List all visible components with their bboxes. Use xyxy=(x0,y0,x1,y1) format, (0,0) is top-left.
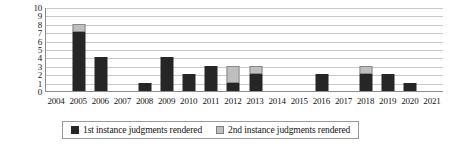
bar-segment-second-instance xyxy=(73,24,86,32)
bar-segment-second-instance xyxy=(227,66,240,83)
dark-square-icon xyxy=(71,126,79,134)
plot-wrapper: 109876543210 xyxy=(25,8,443,98)
bar-segment-first-instance xyxy=(359,74,372,91)
bar-segment-first-instance xyxy=(381,74,394,91)
bar-stack xyxy=(161,57,174,91)
bar-group xyxy=(112,8,134,91)
bar-group xyxy=(156,8,178,91)
bar-segment-first-instance xyxy=(249,74,262,91)
bar-stack xyxy=(359,66,372,91)
x-axis-tick-label: 2010 xyxy=(180,96,197,107)
y-axis: 109876543210 xyxy=(25,8,43,92)
bar-stack xyxy=(227,66,240,91)
bars-layer xyxy=(46,8,443,91)
x-axis-tick-label: 2016 xyxy=(313,96,330,107)
x-axis-tick-label: 2014 xyxy=(269,96,286,107)
bar-group xyxy=(377,8,399,91)
x-axis-tick-label: 2006 xyxy=(92,96,109,107)
bar-segment-second-instance xyxy=(359,66,372,74)
bar-segment-first-instance xyxy=(227,83,240,91)
bar-group xyxy=(46,8,68,91)
bar-stack xyxy=(95,57,108,91)
x-axis-tick-label: 2011 xyxy=(202,96,219,107)
bar-group xyxy=(90,8,112,91)
bar-segment-second-instance xyxy=(249,66,262,74)
bar-stack xyxy=(249,66,262,91)
legend-item-label: 1st instance judgments rendered xyxy=(83,125,202,135)
x-axis-tick-label: 2013 xyxy=(246,96,263,107)
bar-group xyxy=(200,8,222,91)
y-axis-tick-label: 0 xyxy=(38,88,42,97)
legend-item-label: 2nd instance judgments rendered xyxy=(228,125,350,135)
bar-group xyxy=(355,8,377,91)
bar-segment-first-instance xyxy=(183,74,196,91)
bar-stack xyxy=(139,83,152,91)
x-axis-tick-label: 2005 xyxy=(70,96,87,107)
bar-group xyxy=(289,8,311,91)
bar-group xyxy=(222,8,244,91)
bar-segment-first-instance xyxy=(315,74,328,91)
x-axis-tick-label: 2020 xyxy=(401,96,418,107)
bar-chart: 109876543210 200420052006200720082009201… xyxy=(0,0,452,146)
plot-area xyxy=(45,8,443,92)
bar-stack xyxy=(73,24,86,91)
bar-segment-first-instance xyxy=(205,66,218,91)
bar-segment-first-instance xyxy=(73,32,86,91)
x-axis-tick-label: 2007 xyxy=(114,96,131,107)
bar-group xyxy=(333,8,355,91)
legend-item-first-instance: 1st instance judgments rendered xyxy=(71,125,202,135)
bar-group xyxy=(68,8,90,91)
bar-group xyxy=(245,8,267,91)
bar-segment-first-instance xyxy=(403,83,416,91)
x-axis-tick-label: 2017 xyxy=(335,96,352,107)
bar-stack xyxy=(381,74,394,91)
bar-group xyxy=(421,8,443,91)
legend-item-second-instance: 2nd instance judgments rendered xyxy=(216,125,350,135)
bar-group xyxy=(134,8,156,91)
x-axis-tick-label: 2019 xyxy=(379,96,396,107)
x-axis: 2004200520062007200820092010201120122013… xyxy=(45,96,443,109)
x-axis-tick-label: 2009 xyxy=(158,96,175,107)
x-axis-tick-label: 2008 xyxy=(136,96,153,107)
x-axis-tick-label: 2021 xyxy=(423,96,440,107)
light-square-icon xyxy=(216,126,224,134)
bar-stack xyxy=(183,74,196,91)
bar-segment-first-instance xyxy=(139,83,152,91)
bar-group xyxy=(311,8,333,91)
bar-stack xyxy=(205,66,218,91)
chart-legend: 1st instance judgments rendered 2nd inst… xyxy=(62,121,359,139)
bar-stack xyxy=(403,83,416,91)
bar-group xyxy=(178,8,200,91)
bar-stack xyxy=(315,74,328,91)
bar-group xyxy=(267,8,289,91)
bar-group xyxy=(399,8,421,91)
bar-segment-first-instance xyxy=(161,57,174,91)
x-axis-tick-label: 2018 xyxy=(357,96,374,107)
x-axis-tick-label: 2012 xyxy=(224,96,241,107)
x-axis-tick-label: 2004 xyxy=(47,96,64,107)
bar-segment-first-instance xyxy=(95,57,108,91)
x-axis-tick-label: 2015 xyxy=(291,96,308,107)
